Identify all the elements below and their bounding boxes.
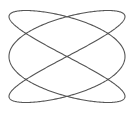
lissajous-figure [0,0,134,116]
lissajous-canvas [0,0,134,116]
lissajous-curve-path [9,11,125,103]
